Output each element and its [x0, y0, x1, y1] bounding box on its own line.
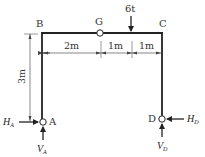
dimension-2m: 2m	[64, 40, 79, 51]
node-label-c: C	[159, 18, 167, 29]
portal-frame-diagram: 6t B G C A D 2m 1m 1m 3m HA VA HD VD	[0, 0, 205, 157]
reaction-vd-label: VD	[157, 140, 168, 152]
dimension-1m-a: 1m	[108, 40, 123, 51]
reaction-va-label: VA	[37, 143, 47, 155]
node-label-a: A	[48, 116, 57, 127]
reaction-hd-label: HD	[186, 113, 199, 125]
load-label: 6t	[125, 3, 135, 14]
dimension-1m-b: 1m	[139, 40, 154, 51]
node-label-g: G	[95, 16, 103, 27]
support-a	[40, 119, 46, 125]
support-d	[159, 116, 165, 122]
hinge-g	[97, 30, 103, 36]
dimension-3m: 3m	[16, 69, 27, 84]
reaction-ha-label: HA	[2, 116, 14, 128]
node-label-b: B	[36, 18, 43, 29]
node-label-d: D	[148, 113, 156, 124]
